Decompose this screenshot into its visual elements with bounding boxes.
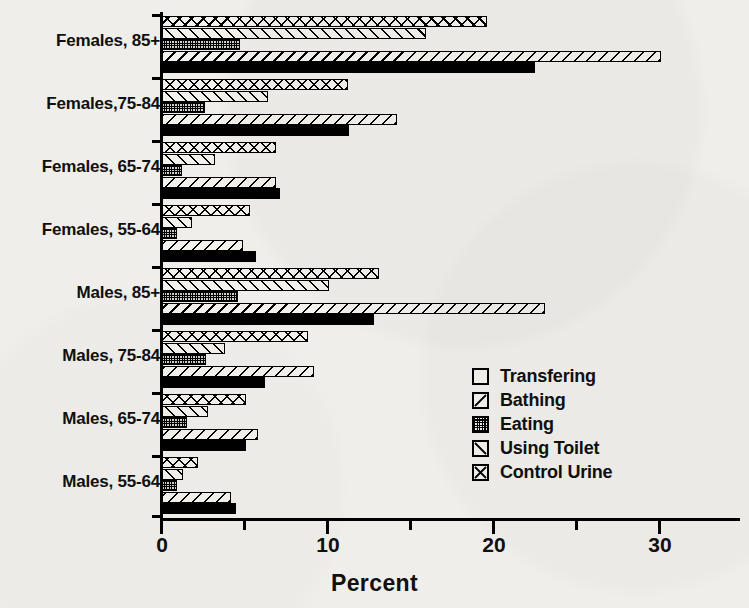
x-axis-line [160,518,740,521]
legend-label: Transfering [500,366,596,387]
cross-hatch-swatch [472,464,489,481]
legend-item-control-urine[interactable]: Control Urine [472,461,612,484]
bar-females-85-bathing [160,51,661,62]
legend-item-transfering[interactable]: Transfering [472,365,612,388]
y-axis-tick [152,455,161,458]
x-axis-label-10: 10 [316,533,339,557]
category-label-males-65-74: Males, 65-74 [62,409,160,429]
bar-females-85-transfering [160,62,535,73]
x-axis-tick-5 [243,521,246,530]
legend-item-using-toilet[interactable]: Using Toilet [472,437,612,460]
bar-males-75-84-bathing [160,366,314,377]
bar-males-65-74-transfering [160,440,246,451]
y-axis-tick [152,392,161,395]
y-axis-line [160,12,163,518]
bar-females-75-84-eating [160,102,205,113]
bar-males-55-64-transfering [160,503,236,514]
y-axis-tick [152,203,161,206]
bar-males-85-transfering [160,314,374,325]
x-axis-title: Percent [0,570,749,597]
x-axis-label-0: 0 [156,533,168,557]
legend-label: Control Urine [500,462,612,483]
category-label-females-75-84: Females,75-84 [46,94,160,114]
legend-label: Using Toilet [500,438,599,459]
y-axis-tick [152,140,161,143]
y-axis-tick [152,515,161,518]
forwardslash-hatch-swatch [472,440,489,457]
category-label-females-55-64: Females, 55-64 [42,220,160,240]
bar-males-75-84-transfering [160,377,265,388]
bar-males-55-64-control-urine [160,457,198,468]
bar-females-55-64-using-toilet [160,217,192,228]
chart-page: Females, 85+ Females,75-84 Females, 65-7… [0,0,749,608]
bar-females-55-64-transfering [160,251,256,262]
bar-males-75-84-using-toilet [160,343,225,354]
x-axis-tick-25 [575,521,578,530]
bar-females-65-74-transfering [160,188,280,199]
bar-females-75-84-using-toilet [160,91,268,102]
bar-males-65-74-bathing [160,429,258,440]
bar-females-85-using-toilet [160,28,426,39]
y-axis-tick [152,266,161,269]
category-label-males-75-84: Males, 75-84 [62,346,160,366]
bar-chart-plot-area: Females, 85+ Females,75-84 Females, 65-7… [0,0,749,608]
y-axis-tick [152,329,161,332]
bar-females-75-84-control-urine [160,79,348,90]
x-axis-label-30: 30 [648,533,671,557]
chart-legend: TransferingBathingEatingUsing ToiletCont… [472,365,612,485]
bar-females-55-64-bathing [160,240,243,251]
bar-females-65-74-using-toilet [160,154,215,165]
bar-males-85-control-urine [160,268,379,279]
bar-males-85-eating [160,291,238,302]
legend-label: Eating [500,414,554,435]
bar-males-75-84-control-urine [160,331,308,342]
y-axis-tick [152,14,161,17]
legend-item-bathing[interactable]: Bathing [472,389,612,412]
bar-males-75-84-eating [160,354,206,365]
bar-males-55-64-bathing [160,492,231,503]
bar-females-85-control-urine [160,16,487,27]
solid-square-swatch [472,368,489,385]
category-label-males-85plus: Males, 85+ [76,283,160,303]
bar-females-75-84-bathing [160,114,397,125]
category-label-males-55-64: Males, 55-64 [62,472,160,492]
legend-label: Bathing [500,390,566,411]
bar-females-65-74-eating [160,165,182,176]
bar-females-75-84-transfering [160,125,349,136]
bar-males-65-74-using-toilet [160,406,208,417]
bar-males-55-64-using-toilet [160,469,183,480]
bar-females-55-64-control-urine [160,205,250,216]
bar-females-85-eating [160,39,240,50]
bar-males-65-74-control-urine [160,394,246,405]
bar-females-65-74-control-urine [160,142,276,153]
backslash-hatch-swatch [472,392,489,409]
category-label-females-65-74: Females, 65-74 [42,157,160,177]
x-axis-tick-15 [409,521,412,530]
bar-males-65-74-eating [160,417,187,428]
stipple-swatch [472,416,489,433]
x-axis-label-20: 20 [482,533,505,557]
legend-item-eating[interactable]: Eating [472,413,612,436]
category-label-females-85plus: Females, 85+ [56,31,160,51]
bar-males-85-bathing [160,303,545,314]
bar-females-65-74-bathing [160,177,276,188]
y-axis-tick [152,77,161,80]
bar-males-85-using-toilet [160,280,329,291]
